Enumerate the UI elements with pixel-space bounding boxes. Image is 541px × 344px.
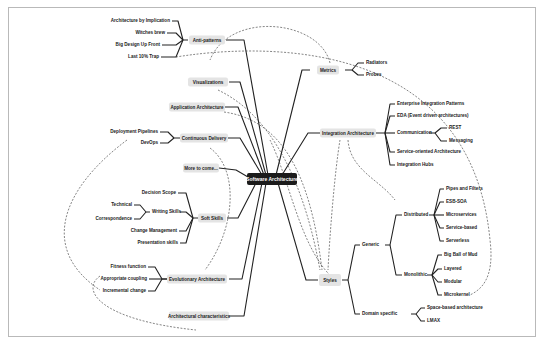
leaf-layered[interactable]: Layered <box>444 267 462 272</box>
leaf-change-management[interactable]: Change Management <box>131 229 177 234</box>
leaf-devops[interactable]: DevOps <box>141 141 158 146</box>
node-communication[interactable]: Communication <box>397 131 432 136</box>
leaf-esb-soa[interactable]: ESB-SOA <box>446 200 467 205</box>
node-monolithic[interactable]: Monolithic <box>404 273 427 278</box>
central-node[interactable]: Software Architecture <box>247 173 297 185</box>
leaf-last-10-trap[interactable]: Last 10% Trap <box>128 55 159 60</box>
node-visualizations[interactable]: Visualizations <box>188 78 228 87</box>
node-soft-skills[interactable]: Soft Skills <box>198 214 226 223</box>
leaf-eda[interactable]: EDA (Event driven architectures) <box>397 114 469 119</box>
leaf-space-based-architecture[interactable]: Space-based architecture <box>427 306 483 311</box>
node-metrics[interactable]: Metrics <box>317 66 339 75</box>
leaf-rest[interactable]: REST <box>449 126 461 131</box>
leaf-modular[interactable]: Modular <box>444 280 462 285</box>
node-domain-specific[interactable]: Domain specific <box>362 312 397 317</box>
leaf-service-based[interactable]: Service-based <box>446 226 477 231</box>
leaf-appropriate-coupling[interactable]: Appropriate coupling <box>101 277 147 282</box>
leaf-big-ball-of-mud[interactable]: Big Ball of Mud <box>444 253 477 258</box>
leaf-soa[interactable]: Service-oriented Architecture <box>397 150 461 155</box>
leaf-enterprise-integration-patterns[interactable]: Enterprise Integration Patterns <box>397 102 464 107</box>
leaf-pipes-and-filters[interactable]: Pipes and Filters <box>446 187 483 192</box>
node-generic[interactable]: Generic <box>362 243 379 248</box>
leaf-presentation-skills[interactable]: Presentation skills <box>137 241 178 246</box>
node-styles[interactable]: Styles <box>319 274 341 286</box>
leaf-big-design-up-front[interactable]: Big Design Up Front <box>116 43 160 48</box>
leaf-incremental-change[interactable]: Incremental change <box>103 289 146 294</box>
leaf-technical[interactable]: Technical <box>111 203 132 208</box>
node-integration-architecture[interactable]: Integration Architecture <box>320 129 376 138</box>
leaf-fitness-function[interactable]: Fitness function <box>111 265 146 270</box>
leaf-serverless[interactable]: Serverless <box>446 239 469 244</box>
leaf-architecture-by-implication[interactable]: Architecture by Implication <box>111 19 170 24</box>
leaf-messaging[interactable]: Messaging <box>449 139 473 144</box>
node-anti-patterns[interactable]: Anti-patterns <box>189 36 225 45</box>
leaf-integration-hubs[interactable]: Integration Hubs <box>397 163 434 168</box>
node-writing-skills[interactable]: Writing Skills <box>152 210 181 215</box>
node-architectural-characteristics[interactable]: Architectural characteristics <box>169 312 229 321</box>
leaf-correspondence[interactable]: Correspondence <box>95 217 132 222</box>
node-evolutionary-architecture[interactable]: Evolutionary Architecture <box>167 275 227 284</box>
node-more-to-come[interactable]: More to come... <box>183 164 219 173</box>
leaf-radiators[interactable]: Radiators <box>366 61 387 66</box>
leaf-probes[interactable]: Probes <box>366 73 382 78</box>
leaf-lmax[interactable]: LMAX <box>427 319 440 324</box>
leaf-microservices[interactable]: Microservices <box>446 213 477 218</box>
leaf-microkernel[interactable]: Microkernel <box>444 293 470 298</box>
leaf-deployment-pipelines[interactable]: Deployment Pipelines <box>110 130 158 135</box>
node-application-architecture[interactable]: Application Architecture <box>169 103 225 112</box>
node-distributed[interactable]: Distributed <box>404 213 428 218</box>
leaf-decision-scope[interactable]: Decision Scope <box>142 191 176 196</box>
leaf-witches-brew[interactable]: Witches brew <box>135 31 165 36</box>
node-continuous-delivery[interactable]: Continuous Delivery <box>180 134 228 143</box>
